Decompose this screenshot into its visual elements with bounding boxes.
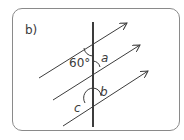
angle-a-label: a — [101, 52, 108, 64]
angle-60-label: 60° — [69, 57, 90, 69]
angle-b-label: b — [100, 86, 108, 98]
angle-c-label: c — [74, 102, 81, 114]
part-label: b) — [25, 24, 37, 36]
parallel-line-2 — [53, 45, 140, 100]
angle-arc-c — [84, 88, 93, 103]
parallel-lines-diagram — [0, 0, 184, 140]
angle-arc-a — [93, 61, 100, 67]
